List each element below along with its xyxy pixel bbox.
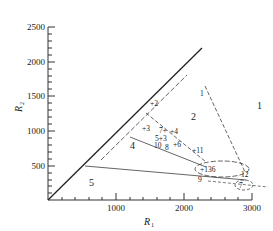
point-4: +4: [170, 127, 178, 136]
diagonal-line: [48, 48, 202, 200]
x-tick-3000: 3000: [243, 203, 262, 213]
point-6: +6: [173, 140, 181, 149]
y-tick-2000: 2000: [27, 57, 46, 67]
point-12: 12: [241, 170, 249, 179]
point-9: 9: [198, 175, 202, 184]
x-tick-1000: 1000: [107, 203, 126, 213]
x-axis: [48, 193, 252, 200]
boundary-1: [205, 86, 245, 172]
point-3: +3: [142, 124, 150, 133]
svg-text:R: R: [13, 106, 24, 113]
svg-text:R: R: [143, 216, 150, 227]
point-11: +11: [192, 146, 204, 155]
svg-text:1: 1: [151, 222, 154, 228]
point-8: 8: [165, 143, 169, 152]
point-2: +2: [150, 99, 158, 108]
point-1: 1: [200, 89, 204, 98]
x-tick-2000: 2000: [175, 203, 194, 213]
scatter-chart: 2500 2000 1500 1000 500 1000 2000 3000 R…: [0, 0, 273, 231]
y-tick-1000: 1000: [27, 126, 46, 136]
svg-text:2: 2: [19, 102, 25, 105]
point-10: 10: [154, 141, 162, 150]
boundary-5: [85, 166, 246, 180]
y-axis-label: R 2: [13, 102, 25, 113]
region-5-label: 5: [89, 177, 94, 188]
point-7b: 7: [239, 181, 243, 190]
lower-dashed: [208, 181, 268, 187]
region-2-label: 2: [191, 111, 196, 122]
y-tick-500: 500: [32, 161, 46, 171]
x-axis-label: R 1: [143, 216, 154, 228]
region-4-label: 4: [130, 140, 135, 151]
y-tick-2500: 2500: [27, 22, 46, 32]
region-1-label: 1: [257, 100, 262, 111]
boundary-lines: [48, 48, 268, 200]
point-136: +136: [200, 165, 216, 174]
y-tick-1500: 1500: [27, 91, 46, 101]
y-axis: [48, 27, 55, 200]
